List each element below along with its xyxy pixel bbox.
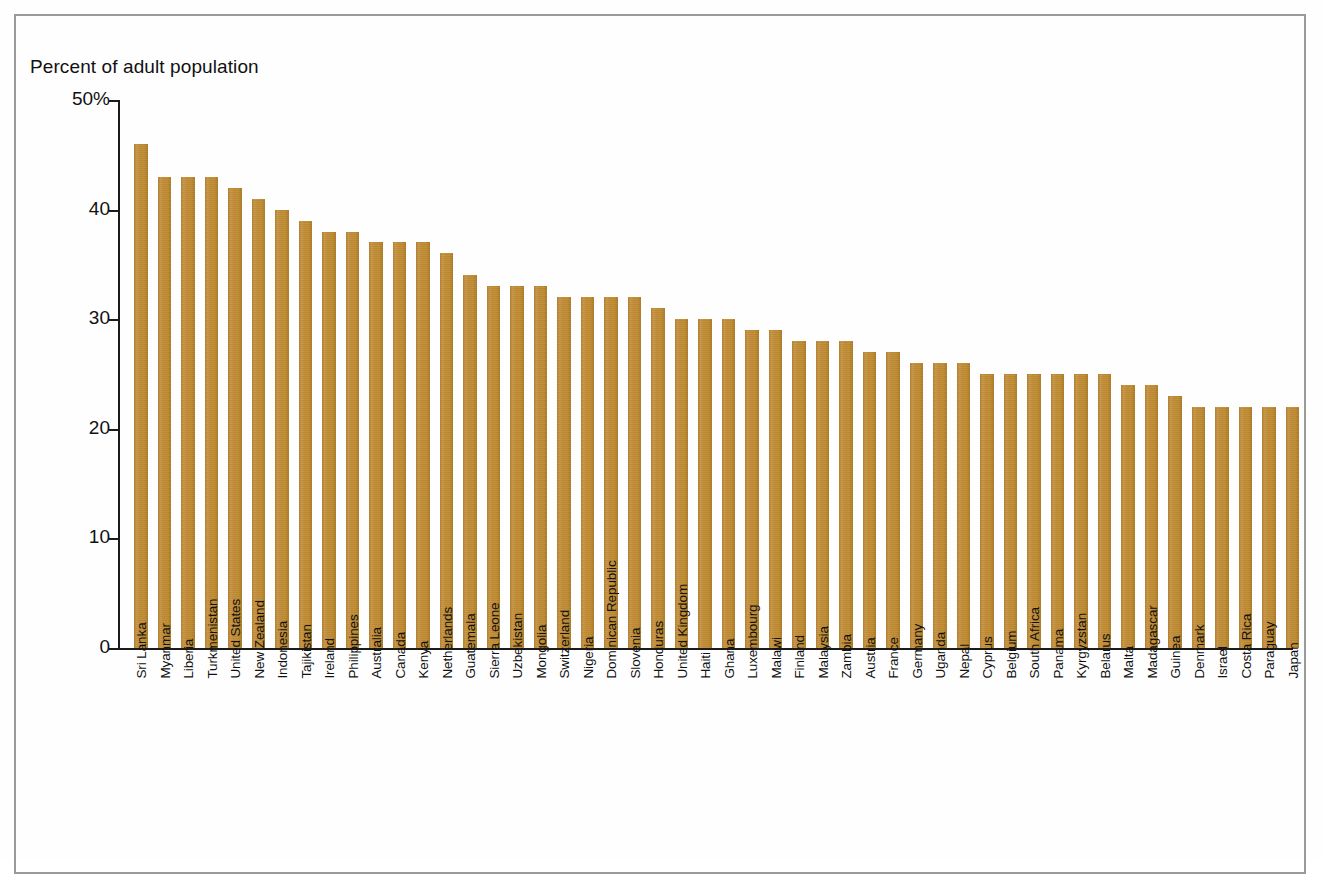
x-axis-label: Belgium (1001, 656, 1024, 679)
x-axis-label-text: Ireland (319, 638, 342, 679)
x-axis-label-text: Japan (1283, 642, 1306, 678)
bar-column (1141, 100, 1164, 648)
bar (534, 286, 548, 648)
x-axis-label: Dominican Republic (601, 656, 624, 679)
x-axis-label: Myanmar (155, 656, 178, 679)
bar-column (953, 100, 976, 648)
x-axis-label: Israel (1212, 656, 1235, 679)
bar (1215, 407, 1229, 648)
x-axis-label: Guinea (1165, 656, 1188, 679)
bar (275, 210, 289, 648)
x-axis-label-text: Slovenia (625, 628, 648, 679)
bar (792, 341, 806, 648)
y-tick-mark (109, 210, 118, 212)
x-axis-label: Madagascar (1142, 656, 1165, 679)
x-axis-label: France (883, 656, 906, 679)
x-axis-label: Indonesia (272, 656, 295, 679)
x-axis-label-text: Indonesia (272, 621, 295, 679)
x-axis-label: Denmark (1189, 656, 1212, 679)
x-axis-label-text: Myanmar (155, 623, 178, 679)
x-axis-label-text: Uganda (930, 632, 953, 679)
x-axis-label: Luxembourg (742, 656, 765, 679)
bar (910, 363, 924, 648)
bar (816, 341, 830, 648)
y-tick-label: 40 (89, 198, 110, 220)
bar (957, 363, 971, 648)
x-axis-label-text: United Kingdom (672, 584, 695, 679)
x-axis-label-text: Malaysia (813, 626, 836, 678)
bar (722, 319, 736, 648)
bar (1168, 396, 1182, 648)
x-axis-label-text: Mongolia (531, 625, 554, 679)
bar-column (647, 100, 670, 648)
x-axis-label: United Kingdom (672, 656, 695, 679)
x-axis-label-text: Nigeria (578, 637, 601, 679)
x-axis-label: Haiti (695, 656, 718, 679)
bar-column (976, 100, 999, 648)
bar (628, 297, 642, 648)
bar (228, 188, 242, 648)
x-axis-label: Nepal (954, 656, 977, 679)
bar-column (318, 100, 341, 648)
bar-column (506, 100, 529, 648)
bar-column (154, 100, 177, 648)
x-axis-label: Kyrgyzstan (1071, 656, 1094, 679)
x-axis-label-text: Australia (366, 627, 389, 679)
bar (510, 286, 524, 648)
bar (839, 341, 853, 648)
bar-column (624, 100, 647, 648)
bar-column (1164, 100, 1187, 648)
bar (980, 374, 994, 648)
x-axis-label-text: Guatemala (460, 613, 483, 678)
x-axis-label: Kenya (413, 656, 436, 679)
bar-column (1282, 100, 1305, 648)
x-axis-label-text: Kyrgyzstan (1071, 613, 1094, 679)
bar (416, 242, 430, 648)
bar (581, 297, 595, 648)
x-axis-label-text: Canada (390, 632, 413, 679)
x-axis-label: Australia (366, 656, 389, 679)
x-axis-label-text: Tajikistan (296, 624, 319, 679)
x-axis-label-text: Belarus (1095, 634, 1118, 679)
x-axis-label: Uganda (930, 656, 953, 679)
bar (393, 242, 407, 648)
x-axis-label-text: South Africa (1024, 607, 1047, 679)
x-axis-label: Belarus (1095, 656, 1118, 679)
bar (181, 177, 195, 648)
x-axis-label: Cyprus (977, 656, 1000, 679)
x-axis-label: Austria (860, 656, 883, 679)
x-axis-label: Costa Rica (1236, 656, 1259, 679)
bar-column (389, 100, 412, 648)
bar-column (1235, 100, 1258, 648)
bar (1004, 374, 1018, 648)
bar-series (118, 100, 1293, 648)
x-axis-label-text: Israel (1212, 646, 1235, 678)
y-tick-mark (109, 429, 118, 431)
bar-column (1188, 100, 1211, 648)
x-axis-label: Liberia (178, 656, 201, 679)
x-axis-label: Nigeria (578, 656, 601, 679)
bar-column (1258, 100, 1281, 648)
bar-column (483, 100, 506, 648)
bar-column (295, 100, 318, 648)
bar-column (741, 100, 764, 648)
bar (1121, 385, 1135, 648)
x-axis-label-text: Dominican Republic (601, 560, 624, 678)
bar (886, 352, 900, 648)
bar-column (1211, 100, 1234, 648)
bar-column (530, 100, 553, 648)
x-axis-label-text: Liberia (178, 639, 201, 679)
x-axis-label-text: Honduras (648, 621, 671, 679)
x-axis-label: Uzbekistan (507, 656, 530, 679)
x-axis-label: Honduras (648, 656, 671, 679)
bar-column (271, 100, 294, 648)
bar-column (248, 100, 271, 648)
y-tick-label: 10 (89, 526, 110, 548)
y-tick-mark (109, 538, 118, 540)
x-axis-label: Philippines (343, 656, 366, 679)
x-axis-label-text: Madagascar (1142, 605, 1165, 678)
x-axis-label-text: Guinea (1165, 636, 1188, 679)
x-axis-label: Tajikistan (296, 656, 319, 679)
x-axis-label: Sierra Leone (484, 656, 507, 679)
bar-column (459, 100, 482, 648)
